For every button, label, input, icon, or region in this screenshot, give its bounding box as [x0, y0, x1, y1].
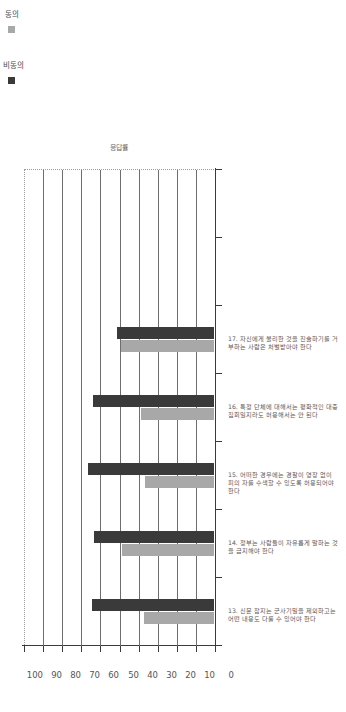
category-label-17: 17. 자신에게 불리한 것을 진술하기를 거부하는 사람은 처벌받아야 한다 [228, 335, 338, 351]
legend-label: 비동의 [2, 59, 20, 70]
legend-item-동의: 동의 [6, 4, 17, 33]
bar-group [23, 464, 214, 489]
value-tick-70 [81, 646, 82, 652]
category-tick-2 [215, 509, 222, 510]
category-tick-5 [215, 305, 222, 306]
bar-group [23, 532, 214, 557]
bar-비동의-17 [117, 328, 214, 340]
category-tick-0 [215, 645, 222, 646]
bar-동의-17 [121, 341, 214, 353]
plot-area [24, 170, 214, 646]
value-tick-50 [120, 646, 121, 652]
bar-동의-13 [144, 613, 214, 625]
category-label-15: 15. 어떠한 경우에는 경찰이 영장 없이 피의 자를 수색할 수 있도록 허… [228, 471, 338, 496]
bar-group [23, 396, 214, 421]
value-tick-80 [62, 646, 63, 652]
category-tick-7 [215, 169, 222, 170]
rotated-figure-canvas: 비동의동의 0102030405060708090100 13. 신문 잡지는 … [0, 0, 346, 712]
category-tick-6 [215, 237, 222, 238]
bar-group [23, 600, 214, 625]
legend-swatch-icon [8, 77, 15, 84]
value-tick-0 [215, 646, 216, 652]
legend-item-비동의: 비동의 [6, 55, 17, 84]
value-tick-10 [196, 646, 197, 652]
bar-비동의-15 [88, 464, 214, 476]
bar-group [23, 328, 214, 353]
value-tick-label-100: 100 [5, 670, 43, 680]
value-tick-40 [139, 646, 140, 652]
category-tick-1 [215, 577, 222, 578]
category-tick-4 [215, 373, 222, 374]
legend-swatch-icon [8, 26, 15, 33]
chart-legend: 비동의동의 [2, 4, 20, 84]
value-tick-100 [24, 646, 25, 652]
bar-비동의-14 [94, 532, 214, 544]
value-tick-90 [43, 646, 44, 652]
category-tick-3 [215, 441, 222, 442]
category-label-13: 13. 신문 잡지는 군사기밀을 제외하고는 어떤 내용도 다룰 수 있어야 한… [228, 607, 338, 623]
bar-비동의-16 [93, 396, 214, 408]
category-label-16: 16. 특정 단체에 대해서는 평화적인 대중집회일지라도 허용해서는 안 된다 [228, 403, 338, 419]
value-axis-title: 응답률 [110, 142, 128, 152]
legend-label: 동의 [2, 8, 20, 19]
value-tick-30 [158, 646, 159, 652]
category-axis-line [215, 168, 216, 648]
bar-chart-figure: 비동의동의 0102030405060708090100 13. 신문 잡지는 … [0, 0, 346, 712]
bar-동의-14 [122, 545, 214, 557]
bar-동의-15 [145, 477, 214, 489]
category-label-14: 14. 정부는 사람들이 자유롭게 말하는 것을 금지해야 한다 [228, 539, 338, 555]
value-tick-60 [100, 646, 101, 652]
bar-동의-16 [141, 409, 214, 421]
bar-비동의-13 [92, 600, 214, 612]
value-tick-20 [177, 646, 178, 652]
